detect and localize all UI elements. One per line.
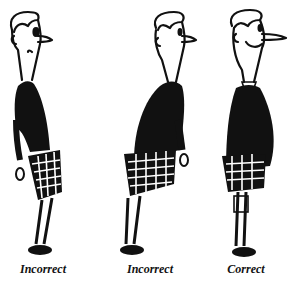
figure-incorrect-2: [100, 0, 205, 260]
figure-correct: [200, 0, 290, 260]
posture-figure-icon: [100, 0, 205, 260]
caption-incorrect-1: Incorrect: [3, 262, 83, 277]
caption-correct: Correct: [206, 262, 286, 277]
posture-figure-icon: [0, 0, 100, 260]
caption-incorrect-2: Incorrect: [110, 262, 190, 277]
figure-incorrect-1: [0, 0, 100, 260]
posture-figure-icon: [200, 0, 290, 260]
